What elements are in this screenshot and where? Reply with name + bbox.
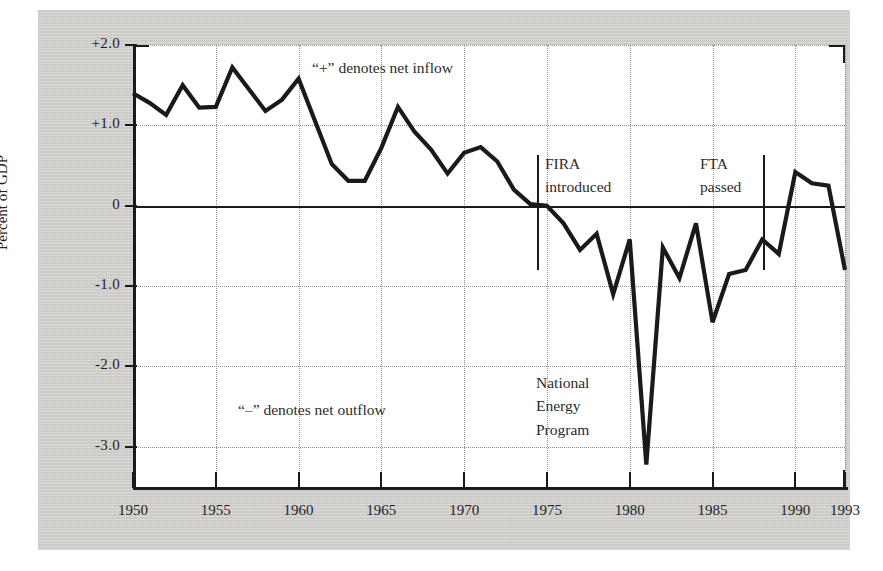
- chart-page: 1950195519601965197019751980198519901993…: [0, 0, 883, 571]
- annotation-fira-line-2: introduced: [545, 175, 611, 198]
- x-axis-tick-label: 1975: [532, 502, 562, 519]
- x-axis-tick-label: 1985: [698, 502, 728, 519]
- annotation-plus-note: “+” denotes net inflow: [312, 57, 453, 79]
- annotation-fira: FIRA introduced: [545, 152, 611, 199]
- x-axis-spine: [133, 487, 848, 490]
- x-axis-tick-label: 1990: [780, 502, 810, 519]
- y-axis-tick-label: -2.0: [40, 356, 120, 373]
- y-axis-tick-label: 0: [40, 196, 120, 213]
- y-axis-tick-label: +2.0: [40, 35, 120, 52]
- x-axis-tick-label: 1993: [830, 502, 860, 519]
- fta-event-marker: [763, 155, 765, 270]
- y-axis-tick-label: +1.0: [40, 115, 120, 132]
- annotation-nep-line-3: Program: [536, 418, 589, 441]
- fira-event-marker: [537, 155, 539, 270]
- annotation-fira-line-1: FIRA: [545, 152, 611, 175]
- y-axis-title: Percent of GDP: [0, 155, 11, 250]
- annotation-minus-note: “–” denotes net outflow: [238, 399, 386, 421]
- annotation-fta-line-1: FTA: [700, 152, 741, 175]
- y-axis-tick-label: -3.0: [40, 437, 120, 454]
- annotation-fta: FTA passed: [700, 152, 741, 199]
- annotation-national-energy-program: National Energy Program: [536, 371, 589, 441]
- annotation-nep-line-1: National: [536, 371, 589, 394]
- x-axis-tick-label: 1960: [284, 502, 314, 519]
- x-axis-tick-label: 1965: [366, 502, 396, 519]
- y-axis-tick-label: -1.0: [40, 276, 120, 293]
- annotation-nep-line-2: Energy: [536, 394, 589, 417]
- x-axis-tick-label: 1970: [449, 502, 479, 519]
- x-axis-tick-label: 1955: [201, 502, 231, 519]
- annotation-fta-line-2: passed: [700, 175, 741, 198]
- x-axis-tick-label: 1980: [615, 502, 645, 519]
- x-axis-tick-label: 1950: [118, 502, 148, 519]
